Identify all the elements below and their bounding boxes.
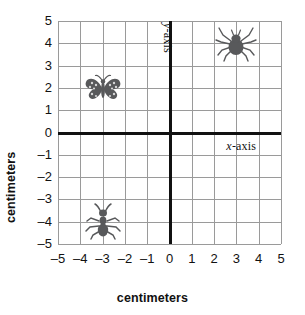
x-tick-label: –4 [69,252,91,265]
x-axis-caption: x-axis [226,139,256,154]
x-tick-label: 0 [159,252,181,265]
x-tick-label: 4 [248,252,270,265]
y-tick-label: 2 [26,81,52,94]
y-tick-label: –3 [26,192,52,205]
x-axis-line [58,132,281,135]
x-tick-label: 5 [270,252,292,265]
y-tick-label: 0 [26,126,52,139]
insect-marker-butterfly [81,66,125,110]
x-tick-label: –2 [114,252,136,265]
x-tick-label: –1 [136,252,158,265]
y-tick-label: –5 [26,237,52,250]
x-axis-caption-text: -axis [232,139,256,153]
y-tick-label: 3 [26,59,52,72]
x-tick-label: –5 [47,252,69,265]
y-axis-caption-text: -axis [161,29,175,53]
insect-marker-spider [214,21,258,65]
y-tick-label: 1 [26,103,52,116]
y-tick-label: –2 [26,170,52,183]
y-axis-caption: y-axis [160,23,175,53]
y-tick-label: –1 [26,148,52,161]
y-tick-label: 5 [26,14,52,27]
x-tick-label: 2 [203,252,225,265]
y-axis-title: centimeters [4,152,18,223]
x-axis-title: centimeters [0,291,305,305]
x-tick-label: –3 [92,252,114,265]
coordinate-plane-figure: x-axisy-axis 543210–1–2–3–4–5 –5–4–3–2–1… [0,0,305,315]
grid-line-vertical [281,21,282,244]
grid-line-horizontal [58,244,281,245]
y-tick-label: 4 [26,36,52,49]
insect-marker-ant [81,200,125,244]
x-tick-label: 1 [181,252,203,265]
x-tick-label: 3 [225,252,247,265]
y-tick-label: –4 [26,215,52,228]
